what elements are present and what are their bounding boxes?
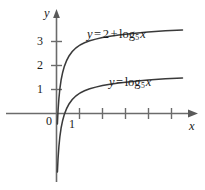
curve-label-lower: y=log5 x [109,76,151,89]
lower-label-arg: x [146,75,152,89]
upper-label-arg: x [140,27,146,41]
lower-label-equals: = [115,75,125,89]
curve-label-upper: y=2+log5 x [87,28,146,41]
upper-label-base: 5 [135,33,139,42]
log-function-graph-figure: y x 3 2 1 0 1 y=2+log5 x y=log5 x [0,0,205,190]
x-axis-label: x [189,119,195,134]
lower-label-y: y [109,75,115,89]
upper-label-log: log [119,27,135,41]
lower-label-log: log [125,75,141,89]
upper-label-plus: + [109,27,119,41]
origin-label: 0 [42,114,52,129]
upper-label-constant: 2 [103,27,109,41]
y-axis-label: y [44,6,50,21]
y-tick-label-3: 3 [33,34,43,49]
x-tick-label-1: 1 [65,117,75,132]
y-tick-label-1: 1 [33,82,43,97]
upper-label-equals: = [93,27,103,41]
y-tick-label-2: 2 [33,58,43,73]
lower-label-base: 5 [141,81,145,90]
upper-label-y: y [87,27,93,41]
curve-lower-log5x [57,78,182,172]
